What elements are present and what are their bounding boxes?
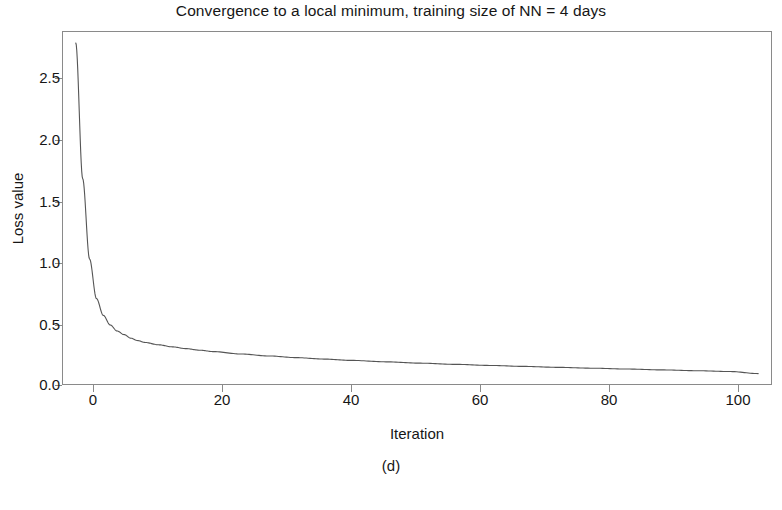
y-tick-label: 0.5 bbox=[0, 317, 60, 332]
x-axis-label: Iteration bbox=[62, 425, 772, 442]
y-tick-label: 2.5 bbox=[0, 70, 60, 85]
x-tick-label: 60 bbox=[445, 392, 515, 407]
x-tick-label: 100 bbox=[703, 392, 773, 407]
plot-area-frame bbox=[62, 31, 772, 385]
x-tick-label: 20 bbox=[187, 392, 257, 407]
y-axis-label: Loss value bbox=[9, 144, 26, 274]
x-tick-label: 0 bbox=[58, 392, 128, 407]
chart-title: Convergence to a local minimum, training… bbox=[0, 2, 782, 20]
figure-container: Convergence to a local minimum, training… bbox=[0, 0, 782, 510]
y-tick-label: 0.0 bbox=[0, 377, 60, 392]
x-tick-label: 80 bbox=[574, 392, 644, 407]
figure-caption: (d) bbox=[0, 457, 782, 474]
x-tick-label: 40 bbox=[316, 392, 386, 407]
